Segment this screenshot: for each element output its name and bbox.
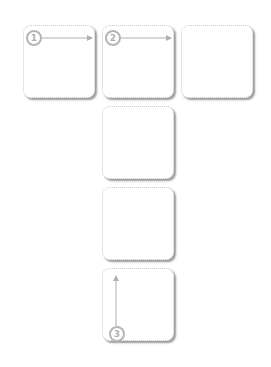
- step-marker-1: 1: [26, 30, 42, 46]
- step-marker-2: 2: [105, 30, 121, 46]
- step-marker-3: 3: [109, 326, 125, 342]
- arrows-layer: [0, 0, 271, 367]
